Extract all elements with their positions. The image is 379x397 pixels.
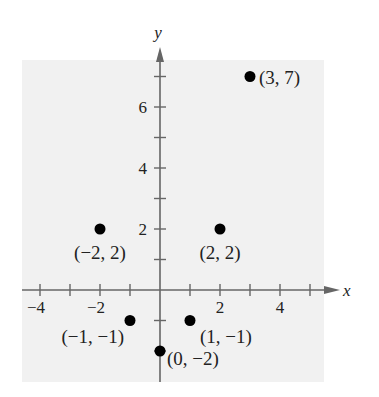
scatter-chart: xy −4−224246 (3, 7)(−2, 2)(2, 2)(−1, −1)… [0, 0, 379, 397]
x-tick-label: −4 [27, 298, 46, 317]
point-label: (3, 7) [259, 67, 300, 89]
x-tick-label: 2 [216, 298, 225, 317]
data-point [215, 224, 226, 235]
point-label: (0, −2) [167, 348, 219, 370]
data-point [125, 315, 136, 326]
y-tick-label: 2 [139, 220, 148, 239]
x-axis-arrow-icon [324, 286, 340, 294]
y-tick-label: 6 [139, 98, 148, 117]
data-point [245, 71, 256, 82]
data-point [95, 224, 106, 235]
point-label: (2, 2) [199, 242, 240, 264]
x-tick-label: −2 [87, 298, 105, 317]
x-tick-label: 4 [276, 298, 285, 317]
y-tick-label: 4 [139, 159, 148, 178]
point-label: (−2, 2) [74, 242, 126, 264]
y-axis-label: y [152, 23, 162, 42]
point-label: (−1, −1) [61, 326, 124, 348]
x-axis-label: x [342, 281, 351, 300]
data-point [155, 346, 166, 357]
data-point [185, 315, 196, 326]
point-label: (1, −1) [200, 326, 252, 348]
y-axis-arrow-icon [156, 47, 164, 62]
